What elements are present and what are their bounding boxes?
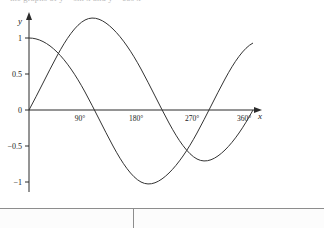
x-axis [29,107,262,113]
y-tick-label-neg-1: −1 [13,178,22,187]
cosine-curve [29,38,253,184]
y-tick-label-1: 1 [18,34,22,43]
x-tick-label-360: 360° [237,114,251,123]
y-tick-label-0-5: 0.5 [12,70,22,79]
sine-cosine-graph: 1 0.5 0 −0.5 −1 90° 180° 270° 360° y x [0,4,324,196]
x-tick-label-90: 90° [75,114,86,123]
table-cell-left[interactable] [0,209,134,228]
y-axis [26,12,32,192]
y-axis-label: y [17,16,22,26]
table-cell-right[interactable] [134,209,324,228]
y-axis-arrowhead [26,12,32,20]
y-tick-label-0: 0 [18,106,22,115]
caption-text: the graphs of y = sin x and y = cos x [0,0,324,3]
x-tick-label-270: 270° [185,114,199,123]
bottom-table [0,208,324,228]
x-axis-label: x [257,111,262,121]
x-tick-label-180: 180° [129,114,143,123]
y-tick-label-neg-0-5: −0.5 [7,142,22,151]
y-axis-ticks [25,38,29,182]
graph-figure: 1 0.5 0 −0.5 −1 90° 180° 270° 360° y x [0,4,324,196]
